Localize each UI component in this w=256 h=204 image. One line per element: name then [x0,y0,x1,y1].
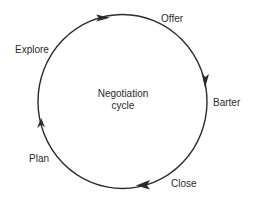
stage-offer-label: Offer [161,13,183,25]
center-title-line2: cycle [86,100,160,112]
stage-plan-label: Plan [29,153,49,165]
center-title-line1: Negotiation [86,88,160,100]
arrow-down-icon [202,73,210,88]
stage-close-label: Close [171,178,197,190]
center-title: Negotiation cycle [86,88,160,112]
stage-barter-label: Barter [213,97,240,109]
stage-explore-label: Explore [15,44,49,56]
